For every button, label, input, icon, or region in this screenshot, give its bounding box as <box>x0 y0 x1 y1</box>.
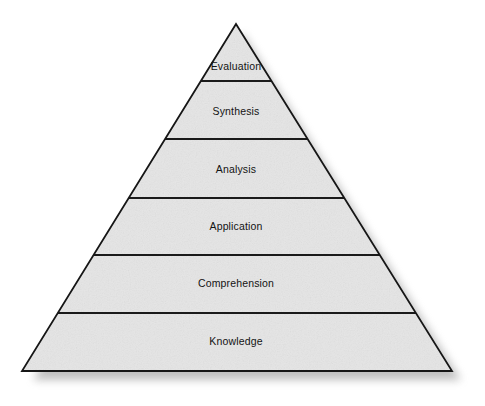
pyramid-svg: Evaluation Synthesis Analysis Applicatio… <box>0 0 485 406</box>
level-label-application: Application <box>209 220 262 232</box>
level-label-synthesis: Synthesis <box>213 105 260 117</box>
level-label-analysis: Analysis <box>216 163 256 175</box>
level-label-comprehension: Comprehension <box>198 277 274 289</box>
pyramid-diagram: Evaluation Synthesis Analysis Applicatio… <box>0 0 485 406</box>
level-label-evaluation: Evaluation <box>211 60 262 72</box>
level-label-knowledge: Knowledge <box>209 335 262 347</box>
